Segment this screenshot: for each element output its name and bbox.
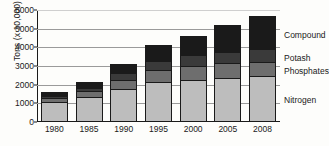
segment-nitrogen-1995[interactable] <box>146 83 171 121</box>
segment-potash-2005[interactable] <box>215 53 240 65</box>
segment-compound-2008[interactable] <box>250 17 275 50</box>
segment-compound-1990[interactable] <box>111 65 136 74</box>
segment-compound-2000[interactable] <box>181 37 206 57</box>
bar-1990[interactable] <box>110 64 137 122</box>
annotation-potash: Potash <box>284 53 310 63</box>
y-tickmark-2000 <box>34 84 37 85</box>
x-tick-1990: 1990 <box>110 124 137 134</box>
plot-area <box>37 10 280 122</box>
segment-nitrogen-1990[interactable] <box>111 90 136 121</box>
y-tick-6000: 6000 <box>15 5 34 15</box>
segment-phosphates-2008[interactable] <box>250 63 275 78</box>
bar-group <box>37 10 280 122</box>
bar-2000[interactable] <box>180 36 207 122</box>
segment-phosphates-2000[interactable] <box>181 67 206 80</box>
segment-compound-2005[interactable] <box>215 26 240 53</box>
y-tickmark-0 <box>34 122 37 123</box>
segment-nitrogen-2008[interactable] <box>250 77 275 121</box>
y-tickmark-4000 <box>34 47 37 48</box>
y-tick-1000: 1000 <box>15 98 34 108</box>
bar-2008[interactable] <box>249 16 276 122</box>
segment-nitrogen-2005[interactable] <box>215 79 240 121</box>
annotation-nitrogen: Nitrogen <box>284 95 316 105</box>
y-tickmark-5000 <box>34 28 37 29</box>
segment-phosphates-1990[interactable] <box>111 81 136 90</box>
x-tick-1985: 1985 <box>76 124 103 134</box>
annotation-phosphates: Phosphates <box>284 66 329 76</box>
y-tickmark-1000 <box>34 103 37 104</box>
bar-2005[interactable] <box>214 25 241 122</box>
y-tick-3000: 3000 <box>15 61 34 71</box>
bar-1985[interactable] <box>76 82 103 122</box>
segment-compound-1995[interactable] <box>146 46 171 62</box>
y-tick-5000: 5000 <box>15 24 34 34</box>
x-tick-2008: 2008 <box>249 124 276 134</box>
segment-nitrogen-2000[interactable] <box>181 81 206 122</box>
annotation-compound: Compound <box>284 30 326 40</box>
x-axis-tick-labels: 1980198519901995200020052008 <box>37 124 280 134</box>
y-tick-4000: 4000 <box>15 42 34 52</box>
x-tick-2005: 2005 <box>214 124 241 134</box>
bar-1995[interactable] <box>145 45 172 122</box>
segment-phosphates-2005[interactable] <box>215 64 240 79</box>
segment-potash-2008[interactable] <box>250 50 275 62</box>
y-tickmark-6000 <box>34 10 37 11</box>
x-tick-1995: 1995 <box>145 124 172 134</box>
segment-potash-1995[interactable] <box>146 62 171 71</box>
y-axis-tick-labels: 0100020003000400050006000 <box>0 0 34 146</box>
bar-1980[interactable] <box>41 92 68 122</box>
y-tickmark-3000 <box>34 66 37 67</box>
segment-potash-2000[interactable] <box>181 56 206 67</box>
x-tick-2000: 2000 <box>180 124 207 134</box>
segment-nitrogen-1985[interactable] <box>77 98 102 121</box>
x-tick-1980: 1980 <box>41 124 68 134</box>
y-tick-2000: 2000 <box>15 80 34 90</box>
segment-nitrogen-1980[interactable] <box>42 103 67 121</box>
segment-phosphates-1995[interactable] <box>146 71 171 83</box>
